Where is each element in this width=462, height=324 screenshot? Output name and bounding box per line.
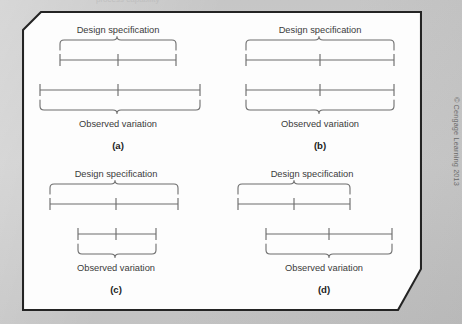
panel-b-design-spec-rule [246,54,394,66]
copyright-credit: © Cengage Learning 2013 [452,97,461,186]
panel-d-letter: (d) [318,284,330,295]
panel-c-letter: (c) [110,284,122,295]
panel-c-design-spec-rule [50,198,178,210]
panel-a-letter: (a) [112,140,124,151]
panel-c: Design specification [28,159,224,307]
clipped-top-caption: process capability [96,0,376,9]
panel-b-observed-variation-brace [246,100,394,114]
panel-a-design-spec-brace [60,37,176,51]
panel-b-letter: (b) [314,140,326,151]
panel-b-observed-variation-label: Observed variation [281,119,359,129]
panel-a-observed-variation-label: Observed variation [79,119,157,129]
panel-a-design-spec-label: Design specification [77,25,160,35]
panel-a-design-spec-rule [60,54,176,66]
panel-a-observed-variation-brace [40,100,200,114]
panel-b-observed-variation-rule [246,84,394,96]
panel-d-design-spec-label: Design specification [271,169,354,179]
panel-b-design-spec-brace [246,37,394,51]
panel-a: Design specification [28,15,224,163]
panel-c-observed-variation-label: Observed variation [77,263,155,273]
panel-d-observed-variation-brace [266,244,392,258]
panel-d-design-spec-rule [238,198,350,210]
panel-c-design-spec-label: Design specification [75,169,158,179]
panel-c-design-spec-brace [50,181,178,195]
panel-d-design-spec-brace [238,181,350,195]
panel-d-observed-variation-rule [266,228,392,240]
panel-c-observed-variation-rule [78,228,156,240]
quadrant-grid: Design specification [22,11,422,311]
panel-d: Design specification [224,159,420,307]
panel-b-design-spec-label: Design specification [279,25,362,35]
panel-a-observed-variation-rule [40,84,200,96]
panel-d-observed-variation-label: Observed variation [285,263,363,273]
panel-c-observed-variation-brace [78,244,156,258]
panel-b: Design specification [224,15,420,163]
